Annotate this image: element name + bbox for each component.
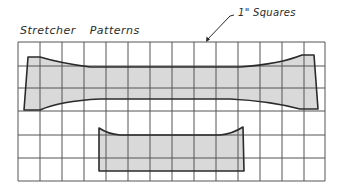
title-word-patterns: Patterns	[90, 24, 140, 37]
title-word-stretcher: Stretcher	[20, 24, 76, 37]
stretcher-patterns-figure: StretcherPatterns 1" Squares	[0, 0, 340, 191]
grid-scale-callout: 1" Squares	[238, 7, 296, 18]
callout-leader-arrow	[206, 15, 234, 42]
figure-title: StretcherPatterns	[20, 24, 140, 37]
